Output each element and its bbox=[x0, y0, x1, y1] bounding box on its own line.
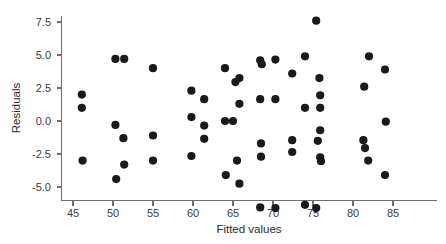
y-tick-label: 2.5 bbox=[36, 82, 51, 94]
data-point bbox=[111, 55, 119, 63]
data-point bbox=[187, 113, 195, 121]
data-point bbox=[235, 180, 243, 188]
data-point bbox=[382, 118, 390, 126]
data-point bbox=[256, 203, 264, 211]
x-tick-label: 60 bbox=[187, 207, 199, 219]
data-point bbox=[221, 117, 229, 125]
data-point bbox=[257, 153, 265, 161]
y-axis-title: Residuals bbox=[10, 83, 22, 134]
data-point bbox=[315, 74, 323, 82]
x-tick-label: 45 bbox=[67, 207, 79, 219]
data-point bbox=[316, 126, 324, 134]
data-point bbox=[149, 64, 157, 72]
x-tick-label: 85 bbox=[387, 207, 399, 219]
data-point bbox=[316, 91, 324, 99]
scatter-plot-canvas: 455055606570758085 7.55.02.50.0-2.5-5.0 … bbox=[0, 0, 446, 244]
data-point bbox=[301, 52, 309, 60]
data-point bbox=[288, 148, 296, 156]
y-tick-label: 5.0 bbox=[36, 49, 51, 61]
data-point bbox=[200, 122, 208, 130]
data-point bbox=[112, 175, 120, 183]
data-point bbox=[120, 160, 128, 168]
data-point bbox=[229, 117, 237, 125]
x-tick-label: 80 bbox=[347, 207, 359, 219]
data-point bbox=[288, 136, 296, 144]
data-point bbox=[271, 95, 279, 103]
data-point bbox=[301, 201, 309, 209]
y-tick-label: -2.5 bbox=[32, 148, 51, 160]
data-point bbox=[200, 135, 208, 143]
x-axis-tick-labels: 455055606570758085 bbox=[67, 207, 399, 219]
data-point bbox=[312, 204, 320, 212]
data-point bbox=[111, 121, 119, 129]
residual-scatter-figure: 455055606570758085 7.55.02.50.0-2.5-5.0 … bbox=[0, 0, 446, 244]
data-point bbox=[361, 144, 369, 152]
y-tick-label: 0.0 bbox=[36, 115, 51, 127]
data-point bbox=[187, 152, 195, 160]
data-point bbox=[235, 74, 243, 82]
data-point bbox=[256, 95, 264, 103]
data-point bbox=[271, 56, 279, 64]
data-point bbox=[200, 95, 208, 103]
data-point bbox=[312, 17, 320, 25]
x-tick-label: 50 bbox=[107, 207, 119, 219]
data-point bbox=[235, 100, 243, 108]
data-point bbox=[78, 104, 86, 112]
data-point bbox=[79, 157, 87, 165]
data-point bbox=[258, 60, 266, 68]
data-point bbox=[120, 55, 128, 63]
y-tick-label: 7.5 bbox=[36, 16, 51, 28]
data-point bbox=[187, 87, 195, 95]
data-point bbox=[149, 131, 157, 139]
data-point bbox=[222, 171, 230, 179]
data-point bbox=[257, 139, 265, 147]
data-point bbox=[149, 157, 157, 165]
data-point bbox=[359, 136, 367, 144]
data-point bbox=[288, 69, 296, 77]
x-axis-title: Fitted values bbox=[216, 223, 281, 235]
data-point bbox=[301, 104, 309, 112]
data-point bbox=[360, 83, 368, 91]
data-point bbox=[78, 91, 86, 99]
data-point bbox=[119, 134, 127, 142]
x-tick-label: 65 bbox=[227, 207, 239, 219]
data-point bbox=[233, 157, 241, 165]
data-point bbox=[221, 64, 229, 72]
data-point bbox=[381, 65, 389, 73]
data-point bbox=[314, 137, 322, 145]
data-point bbox=[365, 52, 373, 60]
y-tick-label: -5.0 bbox=[32, 181, 51, 193]
data-point bbox=[364, 157, 372, 165]
x-tick-label: 55 bbox=[147, 207, 159, 219]
data-point bbox=[271, 204, 279, 212]
data-point bbox=[381, 171, 389, 179]
data-point bbox=[317, 157, 325, 165]
data-point bbox=[316, 104, 324, 112]
